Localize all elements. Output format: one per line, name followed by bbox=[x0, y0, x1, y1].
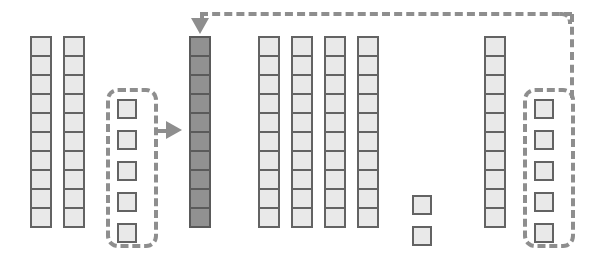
cell[interactable] bbox=[484, 150, 506, 171]
cell[interactable] bbox=[291, 188, 313, 209]
short-cell-column[interactable] bbox=[412, 195, 432, 246]
cell[interactable] bbox=[534, 192, 554, 212]
cell[interactable] bbox=[534, 99, 554, 119]
cell[interactable] bbox=[484, 188, 506, 209]
cell-column-6[interactable] bbox=[324, 36, 346, 228]
cell[interactable] bbox=[291, 36, 313, 57]
cell[interactable] bbox=[189, 112, 211, 133]
cell[interactable] bbox=[484, 74, 506, 95]
cell[interactable] bbox=[484, 131, 506, 152]
cell[interactable] bbox=[258, 169, 280, 190]
cell[interactable] bbox=[117, 223, 137, 243]
cell[interactable] bbox=[30, 207, 52, 228]
cell[interactable] bbox=[324, 150, 346, 171]
cell[interactable] bbox=[484, 55, 506, 76]
cell[interactable] bbox=[63, 188, 85, 209]
cell[interactable] bbox=[30, 55, 52, 76]
cell[interactable] bbox=[534, 130, 554, 150]
cell[interactable] bbox=[30, 188, 52, 209]
cell[interactable] bbox=[324, 131, 346, 152]
cell-column-5[interactable] bbox=[291, 36, 313, 228]
cell[interactable] bbox=[291, 74, 313, 95]
cell[interactable] bbox=[189, 150, 211, 171]
cell[interactable] bbox=[258, 36, 280, 57]
cell[interactable] bbox=[63, 112, 85, 133]
selected-cell-group-right[interactable] bbox=[534, 99, 554, 243]
cell[interactable] bbox=[484, 36, 506, 57]
cell[interactable] bbox=[324, 112, 346, 133]
cell[interactable] bbox=[258, 207, 280, 228]
cell[interactable] bbox=[324, 74, 346, 95]
cell[interactable] bbox=[63, 150, 85, 171]
cell[interactable] bbox=[117, 99, 137, 119]
cell-column-7[interactable] bbox=[357, 36, 379, 228]
cell-column-1[interactable] bbox=[30, 36, 52, 228]
cell[interactable] bbox=[357, 188, 379, 209]
cell[interactable] bbox=[291, 150, 313, 171]
cell[interactable] bbox=[412, 195, 432, 215]
cell[interactable] bbox=[30, 74, 52, 95]
cell[interactable] bbox=[324, 169, 346, 190]
highlighted-cell-column[interactable] bbox=[189, 36, 211, 228]
cell[interactable] bbox=[189, 207, 211, 228]
cell[interactable] bbox=[357, 112, 379, 133]
cell[interactable] bbox=[324, 36, 346, 57]
cell[interactable] bbox=[189, 93, 211, 114]
cell[interactable] bbox=[357, 74, 379, 95]
cell[interactable] bbox=[117, 192, 137, 212]
cell[interactable] bbox=[117, 130, 137, 150]
cell[interactable] bbox=[63, 55, 85, 76]
cell[interactable] bbox=[357, 36, 379, 57]
cell[interactable] bbox=[258, 188, 280, 209]
cell[interactable] bbox=[484, 93, 506, 114]
cell[interactable] bbox=[258, 93, 280, 114]
cell[interactable] bbox=[258, 74, 280, 95]
cell[interactable] bbox=[189, 131, 211, 152]
cell[interactable] bbox=[534, 223, 554, 243]
cell[interactable] bbox=[291, 131, 313, 152]
cell[interactable] bbox=[291, 169, 313, 190]
cell[interactable] bbox=[412, 226, 432, 246]
cell[interactable] bbox=[30, 112, 52, 133]
cell[interactable] bbox=[189, 55, 211, 76]
cell[interactable] bbox=[117, 161, 137, 181]
cell[interactable] bbox=[357, 93, 379, 114]
cell[interactable] bbox=[30, 169, 52, 190]
cell[interactable] bbox=[324, 207, 346, 228]
cell-column-4[interactable] bbox=[258, 36, 280, 228]
selected-cell-group-left[interactable] bbox=[117, 99, 137, 243]
cell[interactable] bbox=[63, 131, 85, 152]
cell[interactable] bbox=[357, 169, 379, 190]
cell[interactable] bbox=[189, 188, 211, 209]
cell[interactable] bbox=[30, 93, 52, 114]
cell[interactable] bbox=[484, 207, 506, 228]
cell[interactable] bbox=[357, 55, 379, 76]
cell[interactable] bbox=[258, 55, 280, 76]
cell[interactable] bbox=[258, 112, 280, 133]
cell[interactable] bbox=[534, 161, 554, 181]
cell[interactable] bbox=[63, 74, 85, 95]
cell[interactable] bbox=[484, 169, 506, 190]
cell[interactable] bbox=[189, 169, 211, 190]
cell[interactable] bbox=[357, 207, 379, 228]
cell[interactable] bbox=[484, 112, 506, 133]
cell-column-8[interactable] bbox=[484, 36, 506, 228]
cell[interactable] bbox=[291, 55, 313, 76]
cell[interactable] bbox=[258, 150, 280, 171]
cell[interactable] bbox=[291, 93, 313, 114]
cell[interactable] bbox=[324, 93, 346, 114]
cell[interactable] bbox=[63, 93, 85, 114]
cell-column-2[interactable] bbox=[63, 36, 85, 228]
cell[interactable] bbox=[258, 131, 280, 152]
cell[interactable] bbox=[189, 36, 211, 57]
cell[interactable] bbox=[291, 207, 313, 228]
cell[interactable] bbox=[63, 207, 85, 228]
cell[interactable] bbox=[30, 36, 52, 57]
cell[interactable] bbox=[324, 55, 346, 76]
cell[interactable] bbox=[324, 188, 346, 209]
cell[interactable] bbox=[291, 112, 313, 133]
cell[interactable] bbox=[30, 150, 52, 171]
cell[interactable] bbox=[63, 169, 85, 190]
cell[interactable] bbox=[189, 74, 211, 95]
cell[interactable] bbox=[357, 131, 379, 152]
